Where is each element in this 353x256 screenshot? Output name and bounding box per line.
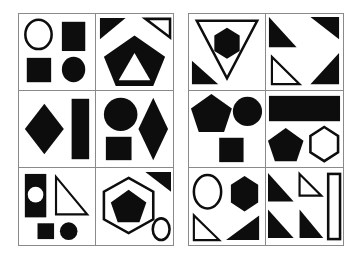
square-shape-filled	[106, 137, 132, 160]
right-panel	[188, 13, 344, 246]
cell-right-1	[189, 14, 266, 91]
triangle-shape-filled	[100, 18, 126, 39]
pentagon-shape-filled	[268, 128, 304, 161]
hexagon-shape-outline	[310, 127, 338, 161]
ellipse-shape-outline	[153, 218, 170, 240]
circle-shape-knockout	[28, 187, 44, 203]
left-panel	[18, 13, 174, 246]
circle-shape-filled	[233, 97, 262, 126]
cell-right-4	[266, 91, 343, 168]
triangle-shape-filled	[268, 209, 294, 238]
triangle-shape-filled	[226, 215, 259, 240]
diamond-shape-filled	[25, 104, 64, 155]
cell-right-2	[266, 14, 343, 91]
rectangle-shape-outline	[328, 174, 340, 239]
square-shape-filled	[219, 138, 243, 162]
cell-left-5	[19, 168, 96, 245]
circle-shape-filled	[104, 98, 138, 131]
rectangle-shape-filled	[62, 22, 85, 51]
cell-right-6	[266, 168, 343, 245]
triangle-shape-outline	[272, 57, 300, 84]
cell-left-2	[96, 14, 173, 91]
hexagon-shape-filled	[231, 176, 258, 212]
pentagon-shape-filled	[191, 94, 232, 132]
triangle-shape-filled	[269, 17, 297, 47]
square-shape-filled	[27, 58, 51, 82]
cell-left-6	[96, 168, 173, 245]
triangle-shape-filled	[310, 53, 339, 84]
triangle-shape-outline	[194, 215, 219, 240]
triangle-shape-filled	[300, 209, 324, 238]
cell-left-1	[19, 14, 96, 91]
cell-right-5	[189, 168, 266, 245]
cell-right-3	[189, 91, 266, 168]
rectangle-shape-filled	[269, 96, 340, 121]
cell-left-4	[96, 91, 173, 168]
figure-canvas	[0, 0, 353, 256]
circle-shape-filled	[60, 222, 78, 240]
triangle-shape-outline	[145, 19, 170, 38]
triangle-shape-filled	[192, 61, 218, 84]
diamond-shape-filled	[138, 98, 168, 160]
cell-left-3	[19, 91, 96, 168]
square-shape-filled	[38, 223, 55, 239]
triangle-shape-filled	[268, 173, 294, 202]
triangle-shape-outline	[56, 177, 87, 215]
ellipse-shape-filled	[62, 57, 85, 82]
triangle-shape-outline	[300, 174, 322, 196]
triangle-shape-filled	[310, 17, 339, 39]
rectangle-shape-filled	[72, 99, 90, 159]
circle-shape-outline	[25, 20, 51, 49]
ellipse-shape-outline	[194, 175, 221, 209]
